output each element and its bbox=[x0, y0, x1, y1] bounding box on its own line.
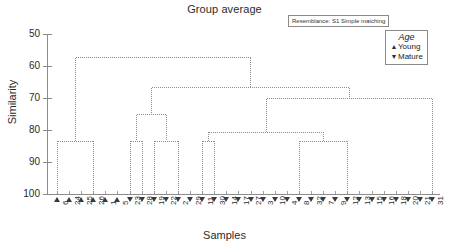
up-triangle-icon bbox=[114, 197, 120, 202]
down-triangle-icon bbox=[356, 197, 362, 202]
up-triangle-icon bbox=[78, 197, 84, 202]
down-triangle-icon bbox=[272, 197, 278, 202]
down-triangle-icon bbox=[429, 197, 435, 202]
axes-and-tree bbox=[0, 0, 449, 246]
down-triangle-icon bbox=[284, 197, 290, 202]
dendrogram-tree bbox=[58, 58, 433, 195]
down-triangle-icon bbox=[163, 197, 169, 202]
down-triangle-icon bbox=[175, 197, 181, 202]
down-triangle-icon bbox=[405, 197, 411, 202]
y-tick-label: 80 bbox=[14, 124, 40, 135]
down-triangle-icon bbox=[248, 197, 254, 202]
down-triangle-icon bbox=[223, 197, 229, 202]
y-tick-label: 50 bbox=[14, 28, 40, 39]
y-tick-label: 70 bbox=[14, 92, 40, 103]
down-triangle-icon bbox=[127, 197, 133, 202]
down-triangle-icon bbox=[235, 197, 241, 202]
down-triangle-icon bbox=[381, 197, 387, 202]
up-triangle-icon bbox=[54, 197, 60, 202]
y-tick-label: 90 bbox=[14, 156, 40, 167]
down-triangle-icon bbox=[260, 197, 266, 202]
down-triangle-icon bbox=[332, 197, 338, 202]
down-triangle-icon bbox=[199, 197, 205, 202]
y-tick-label: 60 bbox=[14, 60, 40, 71]
dendrogram-plot: Group average Resemblance: S1 Simple mat… bbox=[0, 0, 449, 246]
down-triangle-icon bbox=[296, 197, 302, 202]
y-tick-label: 100 bbox=[14, 188, 40, 199]
down-triangle-icon bbox=[320, 197, 326, 202]
down-triangle-icon bbox=[139, 197, 145, 202]
up-triangle-icon bbox=[90, 197, 96, 202]
down-triangle-icon bbox=[417, 197, 423, 202]
down-triangle-icon bbox=[187, 197, 193, 202]
down-triangle-icon bbox=[369, 197, 375, 202]
up-triangle-icon bbox=[66, 197, 72, 202]
down-triangle-icon bbox=[393, 197, 399, 202]
down-triangle-icon bbox=[211, 197, 217, 202]
down-triangle-icon bbox=[344, 197, 350, 202]
up-triangle-icon bbox=[102, 197, 108, 202]
axis-group bbox=[43, 34, 440, 195]
down-triangle-icon bbox=[308, 197, 314, 202]
down-triangle-icon bbox=[151, 197, 157, 202]
x-tick-label: 31 bbox=[436, 196, 445, 205]
